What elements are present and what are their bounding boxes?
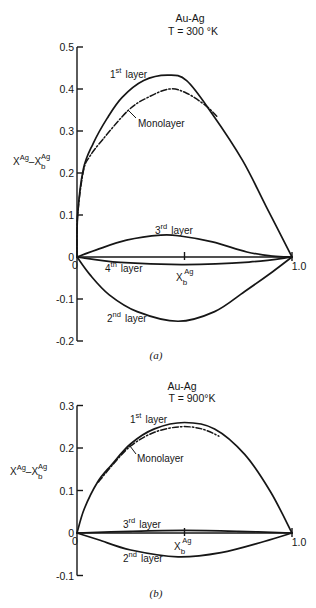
panel-b-x-tick-0: 0 <box>72 535 78 547</box>
panel-a-label-2nd-layer: 2ndlayer <box>107 310 147 324</box>
panel-a-x-axis-label: XbAg <box>176 267 193 287</box>
panel-b-temperature: T = 900°K <box>169 392 216 404</box>
panel-a-label-monolayer: Monolayer <box>138 118 185 129</box>
panel-a-y-axis-label: XAg–XbAg <box>13 152 50 171</box>
panel-b-y-axis-label: XAg–XbAg <box>10 462 47 481</box>
panel-a: Au-Ag T = 300 °K 0.50.40.30.20.10-0.1-0.… <box>13 12 306 362</box>
y-tick-label: 0.3 <box>59 400 74 412</box>
panel-b-system-title: Au-Ag <box>167 380 196 392</box>
y-tick-label: -0.2 <box>56 335 74 347</box>
panel-a-plot: 0.50.40.30.20.10-0.1-0.2 <box>56 41 292 347</box>
panel-b-plot: 0.30.20.10-0.1 <box>56 400 292 582</box>
panel-b-x-tick-1: 1.0 <box>292 536 307 548</box>
y-tick-label: -0.1 <box>56 570 74 582</box>
panel-a-caption: (a) <box>150 349 163 362</box>
panel-b-x-axis-label: XbAg <box>174 536 191 556</box>
series-monolayer <box>77 89 217 257</box>
series-1st-layer <box>77 423 292 534</box>
panel-b-caption: (b) <box>150 587 163 600</box>
y-tick-label: 0.4 <box>59 83 74 95</box>
y-tick-label: 0.2 <box>59 167 74 179</box>
panel-a-temperature: T = 300 °K <box>168 25 218 37</box>
panel-b: Au-Ag T = 900°K 0.30.20.10-0.1 XAg–XbAg … <box>10 380 306 600</box>
panel-b-monolayer-leader <box>130 446 136 454</box>
panel-b-label-2nd-layer: 2ndlayer <box>123 550 163 564</box>
y-tick-label: 0.1 <box>59 485 74 497</box>
y-tick-label: 0.1 <box>59 209 74 221</box>
panel-a-monolayer-leader <box>128 110 136 118</box>
y-tick-label: 0.5 <box>59 41 74 53</box>
panel-a-label-1st-layer: 1stlayer <box>110 66 148 80</box>
panel-a-label-3rd-layer: 3rdlayer <box>155 222 194 236</box>
panel-b-label-3rd-layer: 3rdlayer <box>123 516 162 530</box>
panel-b-label-1st-layer: 1stlayer <box>130 411 168 425</box>
panel-a-system-title: Au-Ag <box>175 12 204 24</box>
y-tick-label: -0.1 <box>56 293 74 305</box>
panel-a-label-4th-layer: 4thlayer <box>105 260 143 274</box>
y-tick-label: 0.2 <box>59 442 74 454</box>
panel-a-x-tick-0: 0 <box>72 259 78 271</box>
figure: Au-Ag T = 300 °K 0.50.40.30.20.10-0.1-0.… <box>0 0 316 608</box>
panel-a-x-tick-1: 1.0 <box>292 260 307 272</box>
y-tick-label: 0.3 <box>59 125 74 137</box>
panel-b-label-monolayer: Monolayer <box>137 453 184 464</box>
